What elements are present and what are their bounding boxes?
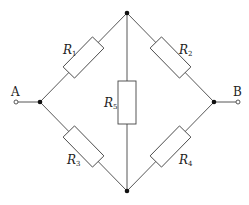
terminal-b-icon [236, 100, 240, 104]
label-r5: R5 [103, 96, 118, 111]
terminal-a-label: A [10, 85, 20, 99]
terminal-b-label: B [233, 85, 242, 99]
resistor-r5 [118, 81, 136, 124]
label-r3: R3 [66, 153, 81, 168]
wheatstone-bridge-diagram: A B R1 R2 R3 R4 R5 [0, 0, 249, 205]
terminal-a-icon [14, 100, 18, 104]
label-r2: R2 [178, 43, 193, 58]
node-a [38, 100, 43, 105]
node-bottom [125, 189, 130, 194]
node-top [125, 11, 130, 16]
label-r4: R4 [178, 153, 193, 168]
label-r1: R1 [62, 43, 77, 58]
node-b [212, 100, 217, 105]
